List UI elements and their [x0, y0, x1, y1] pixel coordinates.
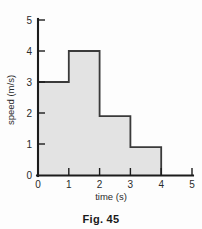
x-tick-label-5: 5 [189, 179, 195, 190]
y-axis-tick-labels: 012345 [26, 15, 32, 181]
x-tick-label-4: 4 [158, 179, 164, 190]
x-tick-label-0: 0 [35, 179, 41, 190]
y-tick-label-4: 4 [26, 46, 32, 57]
y-tick-label-3: 3 [26, 77, 32, 88]
figure-container: 012345 012345 time (s) speed (m/s) Fig. … [0, 0, 202, 229]
y-axis-title: speed (m/s) [5, 75, 16, 125]
y-tick-label-1: 1 [26, 139, 32, 150]
x-tick-label-1: 1 [66, 179, 72, 190]
x-axis-tick-labels: 012345 [35, 179, 195, 190]
y-tick-label-2: 2 [26, 108, 32, 119]
x-tick-label-2: 2 [97, 179, 103, 190]
figure-caption: Fig. 45 [83, 213, 120, 225]
speed-time-chart: 012345 012345 time (s) speed (m/s) Fig. … [0, 0, 202, 229]
x-axis-title: time (s) [95, 191, 127, 202]
y-tick-label-0: 0 [26, 170, 32, 181]
y-tick-label-5: 5 [26, 15, 32, 26]
x-tick-label-3: 3 [128, 179, 134, 190]
